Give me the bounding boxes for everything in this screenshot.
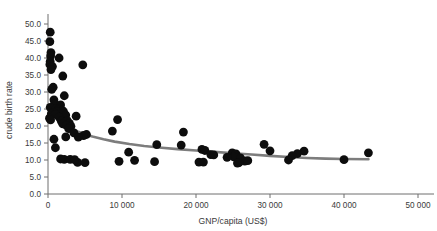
data-point <box>70 155 79 164</box>
data-point <box>150 157 159 166</box>
data-point <box>223 153 232 162</box>
data-point <box>364 148 373 157</box>
data-point <box>47 85 56 94</box>
data-point <box>113 115 122 124</box>
data-point <box>51 143 60 152</box>
data-point <box>60 91 69 100</box>
scatter-chart: 0.05.010.015.020.025.030.035.040.045.050… <box>0 0 437 231</box>
y-tick-label: 50.0 <box>25 20 41 29</box>
y-tick-label: 30.0 <box>25 88 41 97</box>
data-point <box>81 158 90 167</box>
data-point <box>46 115 55 124</box>
x-tick-label: 30 000 <box>257 201 282 210</box>
x-tick-label: 10 000 <box>109 201 134 210</box>
data-point <box>72 112 81 121</box>
y-tick-label: 20.0 <box>25 122 41 131</box>
data-point <box>58 72 67 81</box>
data-point <box>233 159 242 168</box>
data-point <box>260 140 269 149</box>
data-point <box>46 28 55 37</box>
data-point <box>47 65 56 74</box>
data-point <box>340 155 349 164</box>
y-tick-label: 15.0 <box>25 139 41 148</box>
y-axis-title: crude birth rate <box>4 81 14 139</box>
y-tick-label: 25.0 <box>25 105 41 114</box>
y-tick-label: 5.0 <box>30 173 42 182</box>
data-point <box>124 148 133 157</box>
x-axis-title: GNP/capita (US$) <box>199 216 268 226</box>
data-point <box>55 54 64 63</box>
data-point <box>56 155 65 164</box>
y-tick-label: 45.0 <box>25 37 41 46</box>
data-point <box>152 140 161 149</box>
data-point <box>115 157 124 166</box>
y-tick-label: 40.0 <box>25 54 41 63</box>
data-point <box>177 141 186 150</box>
x-tick-label: 20 000 <box>183 201 208 210</box>
data-point <box>74 133 83 142</box>
data-point <box>45 37 54 46</box>
x-tick-label: 50 000 <box>405 201 430 210</box>
data-point <box>179 128 188 137</box>
data-point <box>243 156 252 165</box>
data-point <box>284 156 293 165</box>
x-tick-label: 40 000 <box>331 201 356 210</box>
chart-svg: 0.05.010.015.020.025.030.035.040.045.050… <box>0 0 437 231</box>
data-point <box>50 135 59 144</box>
data-point <box>209 151 218 160</box>
data-point <box>130 156 139 165</box>
data-point <box>108 127 117 136</box>
x-tick-label: 0 <box>46 201 51 210</box>
data-point <box>61 132 70 141</box>
y-tick-label: 0.0 <box>30 190 42 199</box>
y-tick-label: 35.0 <box>25 71 41 80</box>
data-point <box>78 60 87 69</box>
y-tick-label: 10.0 <box>25 156 41 165</box>
data-point <box>266 146 275 155</box>
data-point <box>199 158 208 167</box>
